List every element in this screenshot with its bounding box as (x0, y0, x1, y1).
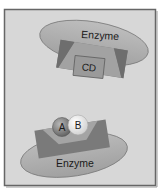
bottom-enzyme-label: Enzyme (56, 157, 94, 169)
top-enzyme-label: Enzyme (81, 28, 120, 42)
substrate-b-label: B (75, 120, 82, 131)
product-cd-label: CD (81, 61, 97, 73)
diagram-container: Enzyme CD Enzyme A B (0, 0, 161, 191)
substrate-a-label: A (59, 122, 66, 133)
enzyme-diagram: Enzyme CD Enzyme A B (0, 0, 161, 191)
